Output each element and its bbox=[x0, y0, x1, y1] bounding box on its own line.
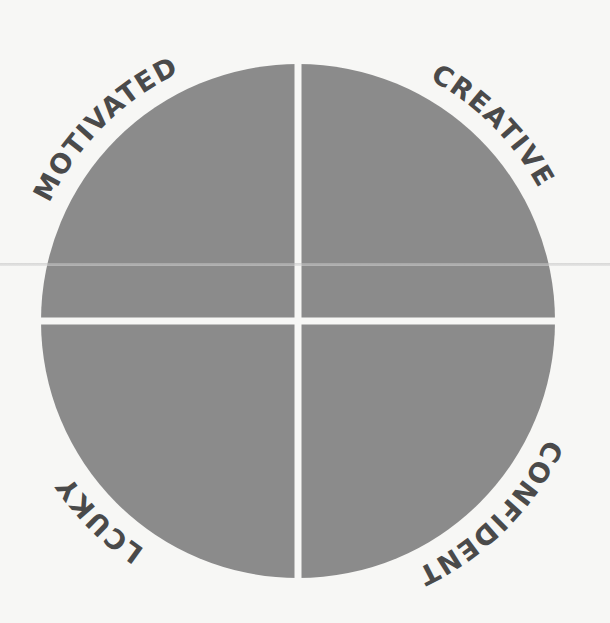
diagram-svg: MOTIVATED CREATIVE CONFIDENT LCUKY bbox=[0, 0, 610, 623]
quadrant-bottom-left bbox=[30, 325, 295, 595]
quadrant-top-left bbox=[30, 50, 295, 318]
quadrant-diagram: MOTIVATED CREATIVE CONFIDENT LCUKY bbox=[0, 0, 610, 623]
scan-artifact-line bbox=[0, 263, 610, 266]
